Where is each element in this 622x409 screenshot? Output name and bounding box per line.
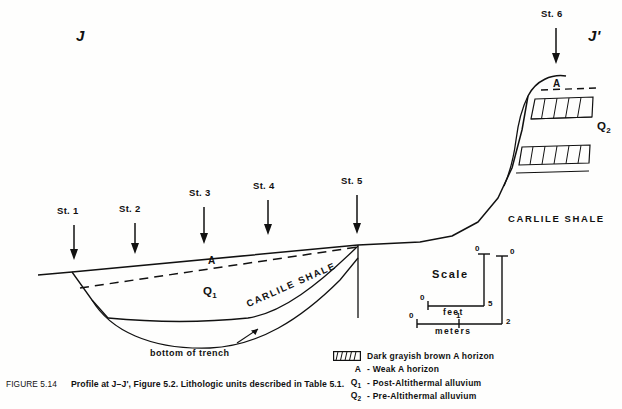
- legend-symbol-q2: Q2: [351, 390, 361, 402]
- legend: Dark grayish brown A horizon A - Weak A …: [333, 349, 573, 403]
- a-horizon-label-trench: A: [208, 256, 215, 266]
- trench-left-wall: [72, 272, 108, 318]
- legend-symbol-q2-subscript: 2: [357, 395, 361, 402]
- station-label-5: St. 5: [341, 176, 363, 186]
- terrace-crest-line: [528, 76, 566, 96]
- station-label-3: St. 3: [189, 188, 211, 198]
- legend-item-weak-a-horizon: A - Weak A horizon: [333, 363, 573, 377]
- scale-feet-max-tick: 5: [488, 300, 492, 308]
- unit-label-q2-subscript: 2: [606, 126, 611, 135]
- scale-title: Scale: [432, 269, 469, 280]
- bottom-of-trench-arrowhead: [251, 329, 258, 335]
- ground-surface-line: [38, 96, 528, 275]
- scale-feet-unit-label: feet: [443, 308, 464, 317]
- legend-label-dark-a-horizon: Dark grayish brown A horizon: [367, 351, 494, 361]
- endpoint-label-right: J': [588, 28, 601, 43]
- bottom-of-trench-label: bottom of trench: [150, 349, 230, 358]
- scale-meters-mid-tick: 1: [456, 312, 460, 320]
- terrace-a-horizon-dashed-line: [541, 88, 596, 90]
- station-label-1: St. 1: [57, 206, 79, 216]
- legend-symbol-a: A: [355, 364, 361, 374]
- station-label-6: St. 6: [541, 9, 563, 19]
- upper-band-base-line: [531, 117, 592, 119]
- hatched-swatch-icon: [333, 351, 361, 361]
- station-label-4: St. 4: [253, 181, 275, 191]
- legend-item-q2: Q2 - Pre-Altithermal alluvium: [333, 390, 573, 404]
- scale-meters-max-tick: 2: [506, 318, 510, 326]
- figure-caption-number: FIGURE 5.14: [6, 379, 57, 389]
- legend-label-q2: - Pre-Altithermal alluvium: [367, 391, 476, 401]
- legend-label-weak-a-horizon: - Weak A horizon: [367, 364, 439, 374]
- scale-feet-min-tick: 0: [420, 294, 424, 302]
- station-arrows: [70, 28, 560, 260]
- legend-symbol-q1: Q1: [351, 377, 361, 389]
- buried-a-horizon-band-lower: [519, 145, 590, 165]
- legend-key-swatch: [333, 351, 367, 361]
- buried-a-horizon-band-upper: [531, 97, 593, 119]
- a-horizon-label-terrace: A: [553, 79, 560, 89]
- unit-label-q1: Q1: [203, 286, 217, 300]
- legend-item-dark-a-horizon: Dark grayish brown A horizon: [333, 349, 573, 363]
- scale-vertical-feet-top-tick: 0: [475, 245, 479, 253]
- figure-caption-text: Profile at J–J', Figure 5.2. Lithologic …: [71, 379, 344, 389]
- scale-vertical-meters-top-tick: 0: [510, 248, 514, 256]
- profile-diagram: [0, 0, 622, 409]
- lower-band-base-line: [516, 171, 589, 173]
- legend-key-q2: Q2: [333, 390, 367, 402]
- unit-label-q2-letter: Q: [597, 120, 606, 132]
- legend-symbol-q1-subscript: 1: [357, 382, 361, 389]
- legend-label-q1: - Post-Altithermal alluvium: [367, 378, 481, 388]
- figure-caption: FIGURE 5.14 Profile at J–J', Figure 5.2.…: [6, 379, 344, 389]
- station-label-2: St. 2: [119, 204, 141, 214]
- unit-label-q1-letter: Q: [203, 285, 212, 297]
- legend-key-a: A: [333, 364, 367, 374]
- endpoint-label-left: J: [76, 28, 85, 43]
- scale-meters-min-tick: 0: [409, 312, 413, 320]
- unit-label-q1-subscript: 1: [212, 291, 217, 300]
- bedrock-label-upland: CARLILE SHALE: [508, 214, 605, 224]
- legend-item-q1: Q1 - Post-Altithermal alluvium: [333, 376, 573, 390]
- scale-meters-unit-label: meters: [435, 327, 471, 336]
- unit-label-q2: Q2: [597, 121, 611, 135]
